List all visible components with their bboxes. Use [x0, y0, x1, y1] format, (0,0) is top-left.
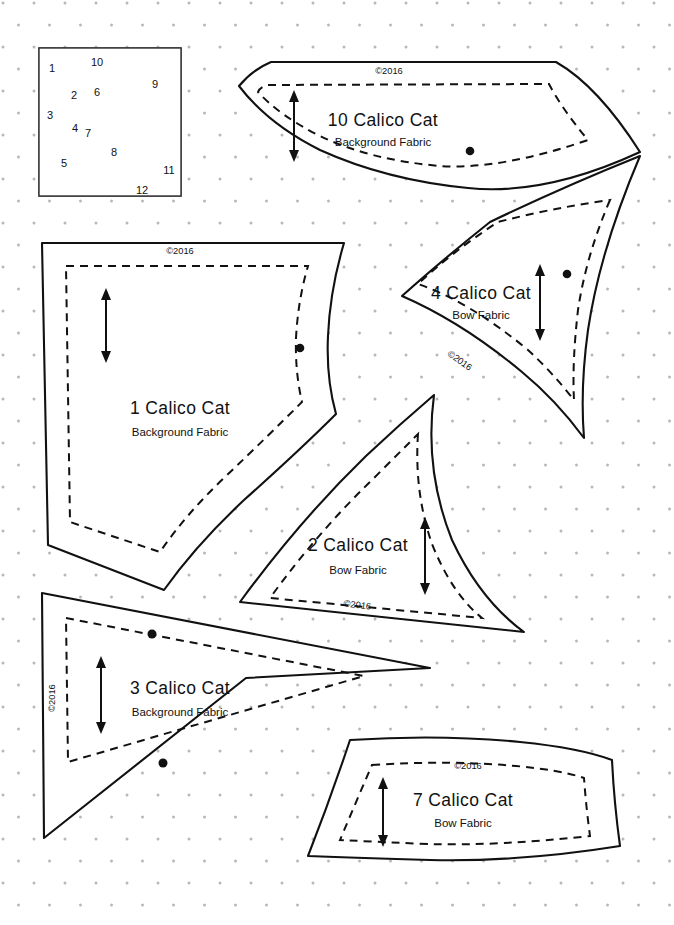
thumb-number: 5 [61, 157, 67, 169]
piece-1-registration-dot [296, 344, 305, 353]
piece-3-registration-dot [159, 759, 168, 768]
piece-3-copyright: ©2016 [47, 684, 57, 712]
thumb-number: 2 [71, 89, 77, 101]
piece-4-copyright: ©2016 [446, 348, 474, 372]
pattern-sheet: 1 10 9 2 6 3 7 4 8 5 11 12 [0, 0, 674, 925]
piece-10-copyright: ©2016 [375, 66, 403, 76]
piece-3-registration-dot [148, 630, 157, 639]
piece-1-copyright: ©2016 [166, 246, 194, 256]
piece-7-label: 7 Calico Cat [413, 790, 513, 810]
piece-4-fabric-type: Bow Fabric [452, 309, 510, 321]
piece-3-fabric-type: Background Fabric [132, 706, 229, 718]
piece-1-label: 1 Calico Cat [130, 398, 230, 418]
pattern-piece-7: ©2016 7 Calico Cat Bow Fabric [308, 737, 620, 860]
piece-4-registration-dot [563, 270, 572, 279]
piece-2-label: 2 Calico Cat [308, 535, 408, 555]
thumb-number: 7 [85, 127, 91, 139]
pattern-piece-10: ©2016 10 Calico Cat Background Fabric [239, 62, 640, 189]
calico-cat-block-diagram: 1 10 9 2 6 3 7 4 8 5 11 12 [39, 48, 181, 196]
piece-7-copyright: ©2016 [454, 761, 482, 771]
piece-3-label: 3 Calico Cat [130, 678, 230, 698]
thumb-number: 3 [47, 109, 53, 121]
thumb-number: 6 [94, 86, 100, 98]
pattern-piece-4: ©2016 4 Calico Cat Bow Fabric [402, 156, 640, 438]
piece-7-fabric-type: Bow Fabric [434, 817, 492, 829]
piece-1-fabric-type: Background Fabric [132, 426, 229, 438]
thumb-number: 12 [136, 184, 148, 196]
piece-10-label: 10 Calico Cat [328, 110, 438, 130]
thumbnail-frame-top [39, 48, 181, 196]
thumb-number: 10 [91, 56, 103, 68]
thumb-number: 4 [72, 122, 78, 134]
thumb-number: 8 [111, 146, 117, 158]
thumb-number: 11 [163, 164, 174, 176]
piece-10-fabric-type: Background Fabric [335, 136, 432, 148]
thumb-number: 9 [152, 78, 158, 90]
thumb-number: 1 [49, 62, 55, 74]
piece-10-registration-dot [466, 147, 475, 156]
piece-4-label: 4 Calico Cat [431, 283, 531, 303]
piece-2-fabric-type: Bow Fabric [329, 564, 387, 576]
